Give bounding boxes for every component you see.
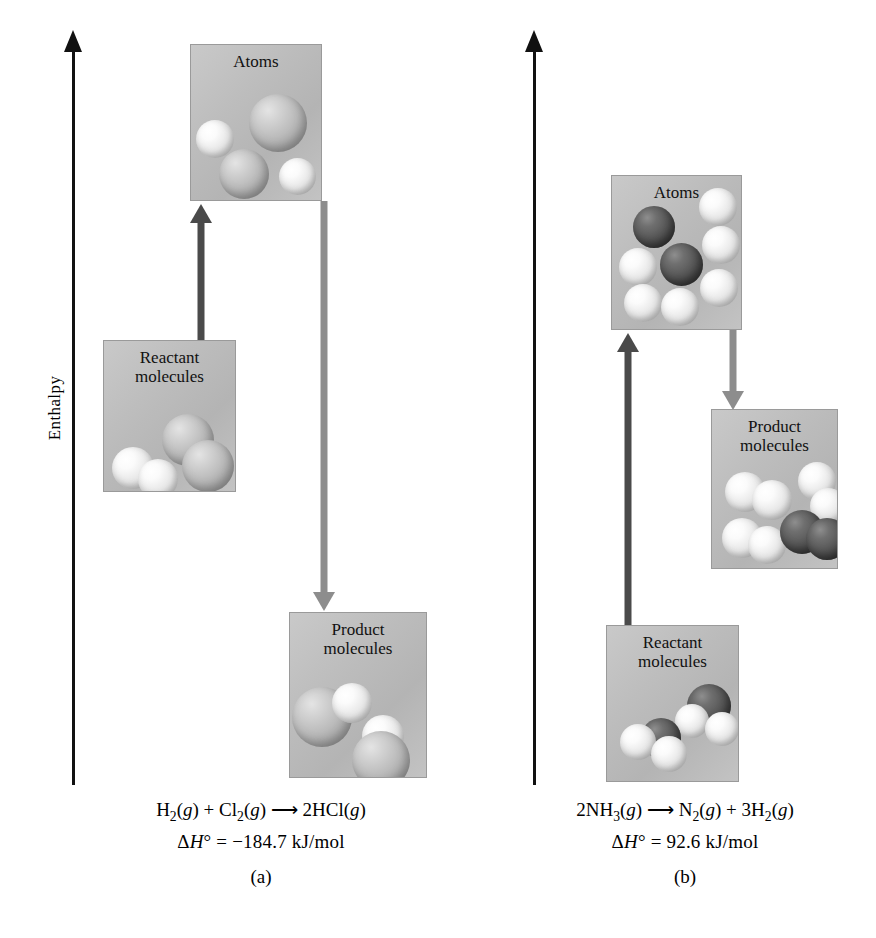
panel-b-enthalpy-value: ΔH° = 92.6 kJ/mol — [520, 827, 850, 856]
axis-line — [72, 48, 75, 785]
hydrogen-atom — [332, 683, 372, 723]
panel-b-reactants-caption: Reactant molecules — [607, 633, 738, 672]
chlorine-atom — [219, 149, 269, 199]
panel-a-reactants-caption: Reactant molecules — [104, 348, 235, 387]
panel-a-bond-breaking-arrow — [190, 204, 212, 341]
arrowhead-icon — [313, 592, 335, 611]
nitrogen-atom — [633, 206, 675, 248]
hydrogen-atom — [138, 459, 178, 492]
panel-b-bond-forming-arrow — [722, 330, 744, 410]
panel-a-products-caption: Product molecules — [290, 620, 426, 659]
hydrogen-atom — [705, 712, 739, 746]
arrowhead-icon — [722, 391, 744, 410]
hydrogen-atom — [651, 736, 687, 772]
chlorine-atom — [182, 440, 234, 492]
hydrogen-atom — [661, 288, 699, 326]
arrow-shaft — [730, 330, 737, 395]
panel-a-bond-forming-arrow — [313, 201, 335, 611]
panel-b-equation: 2NH3(g) ⟶ N2(g) + 3H2(g) — [520, 795, 850, 827]
arrow-shaft — [321, 201, 328, 596]
panel-b-bond-breaking-arrow — [617, 333, 639, 625]
panel-b-products-box: Product molecules — [711, 409, 838, 569]
hydrogen-atom — [700, 269, 738, 307]
panel-b-label: (b) — [520, 866, 850, 888]
panel-b-atoms-caption: Atoms — [612, 183, 741, 202]
hydrogen-atom — [624, 284, 662, 322]
panel-b-atoms-box: Atoms — [611, 175, 742, 330]
panel-a-atoms-caption: Atoms — [191, 52, 321, 71]
hydrogen-atom — [279, 158, 316, 195]
panel-a-reactants-box: Reactant molecules — [103, 340, 236, 492]
panel-a-atoms-box: Atoms — [190, 44, 322, 201]
arrow-shaft — [625, 348, 632, 625]
panel-a-label: (a) — [96, 866, 426, 888]
panel-a-equation: H2(g) + Cl2(g) ⟶ 2HCl(g) — [96, 795, 426, 827]
nitrogen-atom — [660, 243, 703, 286]
panel-a-products-box: Product molecules — [289, 612, 427, 778]
hydrogen-atom — [619, 248, 657, 286]
hydrogen-atom — [702, 226, 740, 264]
panel-b-equation-block: 2NH3(g) ⟶ N2(g) + 3H2(g) ΔH° = 92.6 kJ/m… — [520, 795, 850, 856]
panel-a-enthalpy-value: ΔH° = −184.7 kJ/mol — [96, 827, 426, 856]
chlorine-atom — [249, 94, 307, 152]
panel-b-products-caption: Product molecules — [712, 417, 837, 456]
arrow-shaft — [198, 219, 205, 341]
axis-line — [533, 48, 536, 785]
panel-b-reactants-box: Reactant molecules — [606, 625, 739, 782]
hydrogen-atom — [752, 480, 792, 520]
nitrogen-atom — [806, 518, 838, 560]
panel-a-equation-block: H2(g) + Cl2(g) ⟶ 2HCl(g) ΔH° = −184.7 kJ… — [96, 795, 426, 856]
axis-label-enthalpy-a: Enthalpy — [45, 348, 65, 468]
hydrogen-atom — [196, 120, 234, 158]
enthalpy-diagram-figure: Enthalpy Atoms Reactant molecules Produc… — [0, 0, 876, 938]
